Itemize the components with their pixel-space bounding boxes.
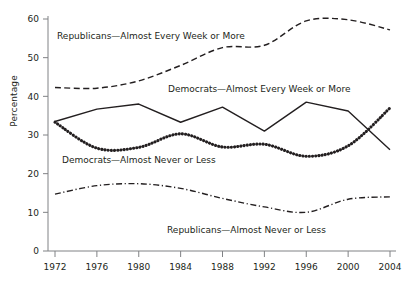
chart-plot-area: 0102030405060 19721976198019841988199219… xyxy=(0,0,407,284)
data-series-group xyxy=(55,18,390,212)
x-tick-label: 1996 xyxy=(295,262,318,272)
x-tick-label: 1984 xyxy=(169,262,192,272)
y-axis: 0102030405060 xyxy=(28,14,48,256)
x-tick-label: 1992 xyxy=(253,262,276,272)
x-tick-group: 197219761980198419881992199620002004 xyxy=(44,251,402,272)
series-line-2 xyxy=(55,108,390,156)
x-tick-label: 1976 xyxy=(85,262,108,272)
line-chart: Percentage 0102030405060 197219761980198… xyxy=(0,0,407,284)
y-tick-label: 50 xyxy=(28,53,40,63)
x-tick-label: 1988 xyxy=(211,262,234,272)
annotation-rep-low: Republicans—Almost Never or Less xyxy=(167,225,326,235)
x-tick-label: 1972 xyxy=(44,262,67,272)
x-tick-label: 2000 xyxy=(337,262,360,272)
annotation-dem-high: Democrats—Almost Every Week or More xyxy=(168,84,351,94)
annotation-rep-high: Republicans—Almost Every Week or More xyxy=(57,31,245,41)
y-tick-group: 0102030405060 xyxy=(28,14,48,256)
y-tick-label: 30 xyxy=(28,130,40,140)
y-tick-label: 60 xyxy=(28,14,40,24)
x-axis: 197219761980198419881992199620002004 xyxy=(44,251,402,272)
annotation-dem-low: Democrats—Almost Never or Less xyxy=(62,155,216,165)
series-line-0 xyxy=(55,18,390,88)
series-line-3 xyxy=(55,184,390,213)
series-line-1 xyxy=(55,102,390,150)
series-annotation-group: Republicans—Almost Every Week or More De… xyxy=(57,31,351,235)
x-tick-label: 2004 xyxy=(379,262,402,272)
x-tick-label: 1980 xyxy=(127,262,150,272)
y-tick-label: 10 xyxy=(28,208,40,218)
y-tick-label: 0 xyxy=(33,246,39,256)
y-tick-label: 20 xyxy=(28,169,40,179)
y-tick-label: 40 xyxy=(28,92,40,102)
